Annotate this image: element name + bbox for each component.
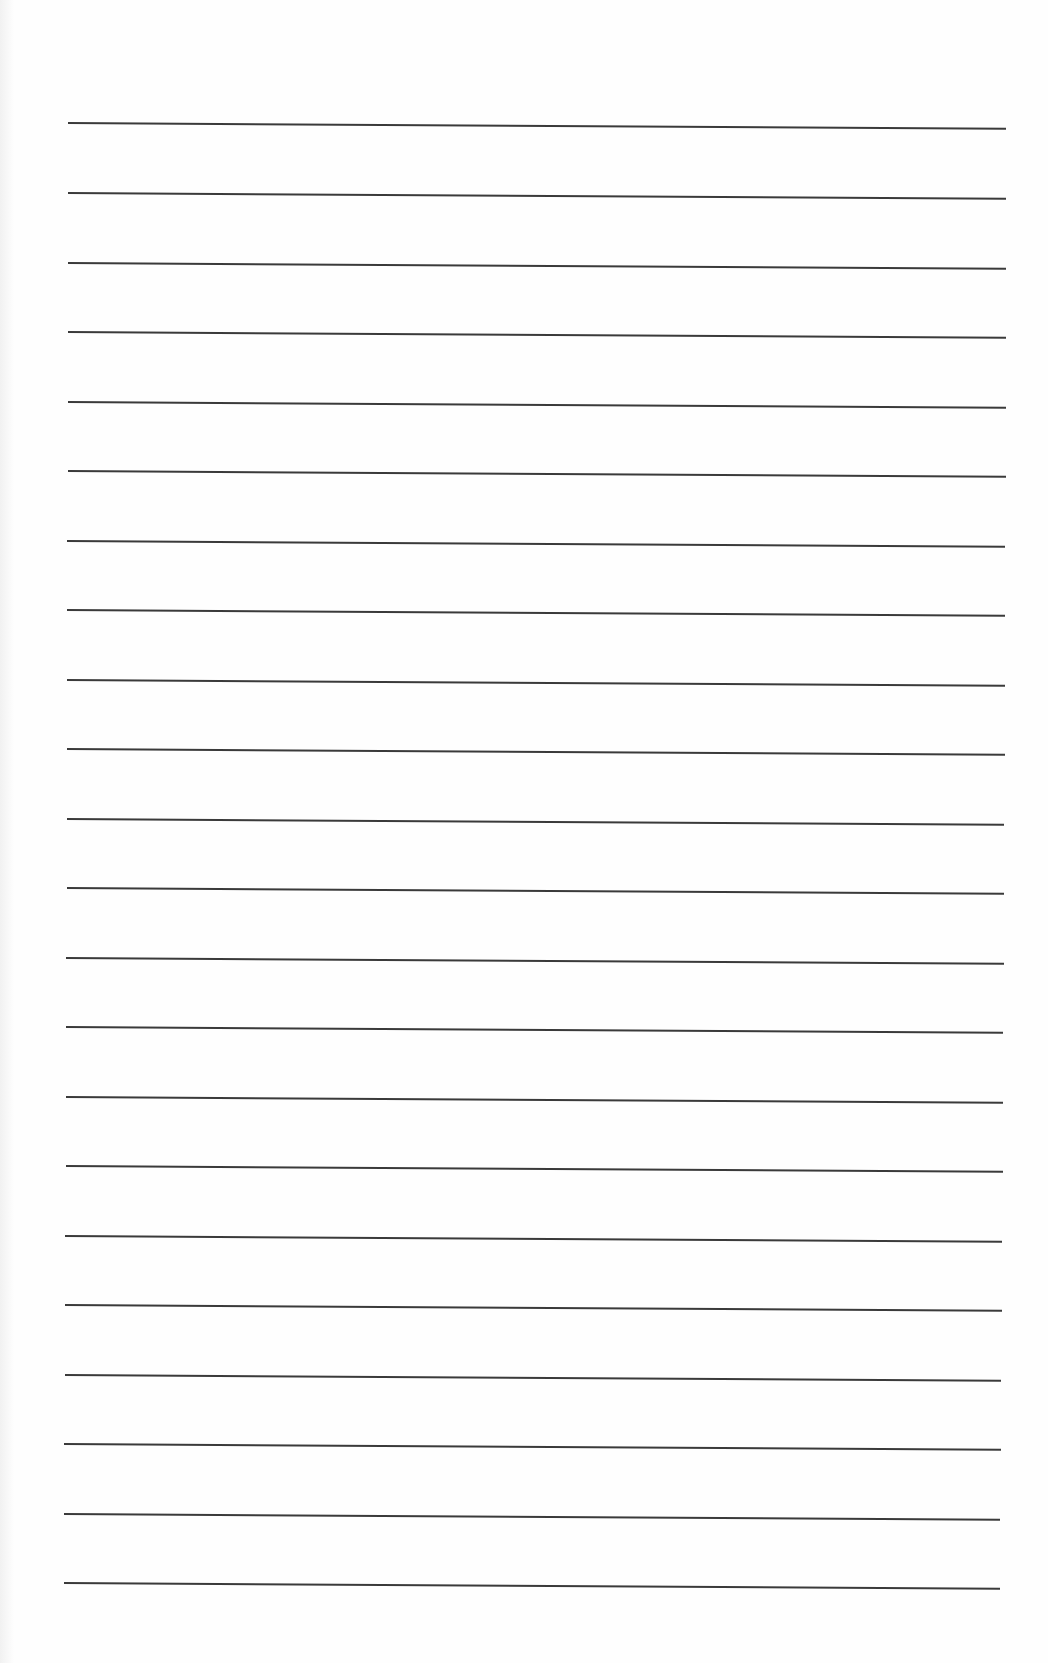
ruled-line bbox=[67, 887, 1004, 895]
ruled-line bbox=[68, 401, 1006, 409]
ruled-line bbox=[67, 609, 1005, 617]
ruled-line bbox=[65, 1235, 1002, 1243]
ruled-line bbox=[67, 748, 1005, 756]
ruled-line bbox=[66, 1096, 1003, 1104]
ruled-line bbox=[68, 192, 1006, 200]
ruled-line bbox=[67, 679, 1005, 687]
ruled-page bbox=[0, 0, 1048, 1663]
ruled-line bbox=[66, 1165, 1003, 1173]
ruled-line bbox=[68, 470, 1006, 478]
page-edge-shadow bbox=[0, 0, 14, 1663]
ruled-line bbox=[65, 1374, 1001, 1382]
ruled-line bbox=[67, 818, 1004, 826]
ruled-line bbox=[68, 122, 1006, 130]
ruled-line bbox=[66, 1026, 1003, 1034]
ruled-line bbox=[64, 1582, 1000, 1590]
ruled-line bbox=[67, 540, 1005, 548]
ruled-line bbox=[64, 1513, 1000, 1521]
ruled-line bbox=[68, 262, 1006, 270]
ruled-line bbox=[66, 957, 1004, 965]
ruled-line bbox=[65, 1304, 1002, 1312]
ruled-line bbox=[64, 1443, 1001, 1451]
ruled-line bbox=[68, 331, 1006, 339]
